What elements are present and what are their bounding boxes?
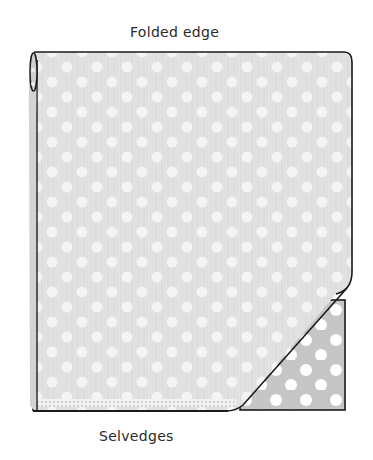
fabric-diagram [0, 0, 373, 460]
fold-roll [29, 53, 37, 410]
selvedge-strip [38, 399, 238, 407]
